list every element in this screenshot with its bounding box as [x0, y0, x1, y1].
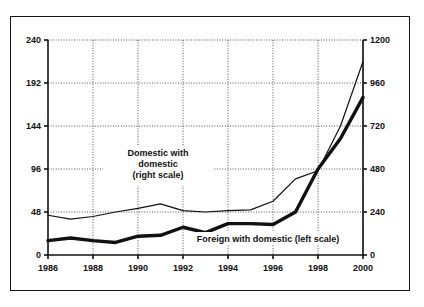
series-line-domestic-with-domestic — [48, 62, 363, 220]
domestic-label-line1: Domestic with — [127, 148, 188, 158]
x-tick-label-1994: 1994 — [218, 263, 238, 273]
right-tick-label-480: 480 — [370, 164, 385, 174]
foreign-label-line1: Foreign with domestic (left scale) — [197, 234, 340, 244]
x-tick-label-1986: 1986 — [38, 263, 58, 273]
chart-canvas: 04896144192240 02404807209601200 1986198… — [0, 0, 424, 307]
x-axis-tick-labels: 19861988199019921994199619982000 — [38, 263, 373, 273]
right-tick-label-1200: 1200 — [370, 35, 390, 45]
left-tick-label-192: 192 — [26, 78, 41, 88]
x-tick-label-1988: 1988 — [83, 263, 103, 273]
right-tick-label-960: 960 — [370, 78, 385, 88]
x-tick-label-1996: 1996 — [263, 263, 283, 273]
figure-container: 04896144192240 02404807209601200 1986198… — [0, 0, 424, 307]
right-tick-label-720: 720 — [370, 121, 385, 131]
horizontal-gridlines — [48, 40, 363, 212]
left-tick-label-0: 0 — [36, 250, 41, 260]
left-tick-label-48: 48 — [31, 207, 41, 217]
left-axis-tick-labels: 04896144192240 — [26, 35, 41, 260]
x-tick-label-1990: 1990 — [128, 263, 148, 273]
foreign-series-label: Foreign with domestic (left scale) — [188, 232, 348, 245]
domestic-label-line2: domestic — [138, 159, 178, 169]
right-tick-label-0: 0 — [370, 250, 375, 260]
domestic-label-line3: (right scale) — [132, 170, 183, 180]
x-tick-label-1998: 1998 — [308, 263, 328, 273]
x-tick-label-2000: 2000 — [353, 263, 373, 273]
right-axis-tick-labels: 02404807209601200 — [370, 35, 390, 260]
domestic-series-label: Domestic with domestic (right scale) — [103, 146, 213, 186]
left-tick-label-144: 144 — [26, 121, 41, 131]
right-tick-label-240: 240 — [370, 207, 385, 217]
x-tick-label-1992: 1992 — [173, 263, 193, 273]
left-tick-label-240: 240 — [26, 35, 41, 45]
left-tick-label-96: 96 — [31, 164, 41, 174]
